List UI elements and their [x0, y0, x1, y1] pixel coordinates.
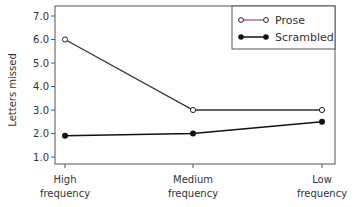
x-category-label: Low [312, 174, 332, 185]
data-point-open-circle [319, 107, 324, 112]
line-chart: 1.02.03.04.05.06.07.0 Letters missed Hig… [0, 0, 360, 207]
legend: Prose Scrambled [232, 6, 335, 49]
y-tick-label: 6.0 [33, 34, 49, 45]
open-circle-marker-icon [239, 18, 244, 23]
x-category-label: frequency [40, 188, 90, 199]
y-tick-label: 3.0 [33, 105, 49, 116]
x-category-label: frequency [297, 188, 347, 199]
data-point-filled-circle [62, 133, 68, 139]
data-point-open-circle [62, 37, 67, 42]
y-tick-label: 1.0 [33, 152, 49, 163]
y-axis-title: Letters missed [7, 53, 18, 126]
legend-label-prose: Prose [275, 14, 305, 27]
y-tick-label: 4.0 [33, 81, 49, 92]
data-point-open-circle [190, 107, 195, 112]
y-tick-label: 7.0 [33, 11, 49, 22]
data-point-filled-circle [190, 131, 196, 137]
x-axis: HighfrequencyMediumfrequencyLowfrequency [40, 164, 347, 199]
data-point-filled-circle [319, 119, 325, 125]
x-category-label: frequency [168, 188, 218, 199]
filled-circle-marker-icon [263, 34, 269, 40]
y-tick-label: 2.0 [33, 128, 49, 139]
x-category-label: High [54, 174, 77, 185]
series-layer [62, 37, 325, 139]
filled-circle-marker-icon [238, 34, 244, 40]
legend-label-scrambled: Scrambled [275, 31, 334, 44]
y-tick-label: 5.0 [33, 58, 49, 69]
x-category-label: Medium [173, 174, 213, 185]
open-circle-marker-icon [264, 18, 269, 23]
series-line-prose [65, 40, 322, 111]
y-axis: 1.02.03.04.05.06.07.0 [33, 11, 55, 163]
